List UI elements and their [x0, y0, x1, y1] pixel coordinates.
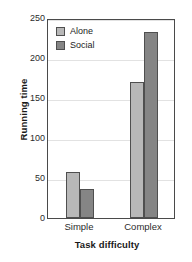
y-tick-label: 150	[19, 94, 45, 103]
legend: Alone Social	[56, 25, 95, 53]
legend-item: Alone	[56, 25, 95, 38]
y-tick-label: 250	[19, 14, 45, 23]
x-axis-tick-labels: SimpleComplex	[47, 222, 175, 236]
bar-complex-social	[144, 32, 158, 218]
legend-swatch-alone	[56, 27, 65, 36]
x-tick-label: Complex	[103, 222, 183, 232]
bar-chart-figure: Running time 050100150200250 Alone Socia…	[0, 0, 192, 262]
y-tick-label: 200	[19, 54, 45, 63]
legend-label-alone: Alone	[70, 27, 93, 36]
bar-complex-alone	[130, 82, 144, 218]
plot-area: Alone Social	[47, 19, 175, 219]
legend-label-social: Social	[70, 41, 95, 50]
y-tick-label: 100	[19, 134, 45, 143]
legend-swatch-social	[56, 41, 65, 50]
bar-simple-social	[80, 189, 94, 218]
bar-simple-alone	[66, 172, 80, 218]
legend-item: Social	[56, 39, 95, 52]
y-tick-label: 50	[19, 174, 45, 183]
gridline	[48, 20, 174, 21]
x-axis-title: Task difficulty	[0, 239, 192, 250]
